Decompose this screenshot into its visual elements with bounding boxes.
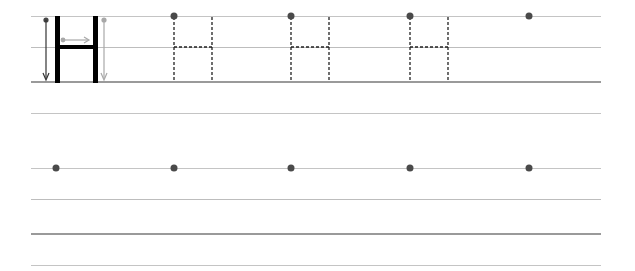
trace-letter-h-2[interactable] (291, 17, 329, 82)
stroke-arrow-right-down-icon (101, 17, 107, 80)
letter-strokes (0, 0, 635, 271)
start-dot-icon[interactable] (407, 165, 414, 172)
model-letter-h (55, 16, 98, 83)
start-dot-icon (407, 13, 414, 20)
start-dot-icon (288, 13, 295, 20)
stroke-arrow-left-down-icon (43, 17, 49, 80)
start-dot-icon[interactable] (526, 13, 533, 20)
trace-letter-h-1[interactable] (174, 17, 212, 82)
start-dot-icon[interactable] (526, 165, 533, 172)
trace-letter-h-3[interactable] (410, 17, 448, 82)
start-dot-icon[interactable] (171, 165, 178, 172)
start-dot-icon[interactable] (288, 165, 295, 172)
stroke-arrow-crossbar-right-icon (61, 37, 89, 43)
start-dot-icon (171, 13, 178, 20)
start-dot-icon[interactable] (53, 165, 60, 172)
